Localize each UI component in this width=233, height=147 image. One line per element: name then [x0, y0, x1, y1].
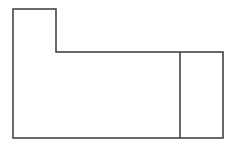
diagram-canvas: [0, 0, 233, 147]
l-shaped-outline: [13, 9, 223, 138]
